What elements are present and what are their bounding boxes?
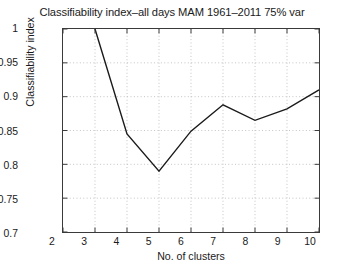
x-tick-label: 9 — [268, 236, 288, 247]
y-axis-label: Classifiability index — [24, 0, 36, 142]
y-tick-label: 0.7 — [4, 228, 18, 239]
x-tick-label: 8 — [236, 236, 256, 247]
y-tick-label: 0.85 — [0, 125, 18, 136]
chart-figure: Classifiability index–all days MAM 1961–… — [0, 0, 344, 272]
y-tick-label: 0.95 — [0, 57, 18, 68]
x-tick-label: 3 — [74, 236, 94, 247]
x-tick-label: 6 — [171, 236, 191, 247]
x-tick-label: 4 — [107, 236, 127, 247]
y-tick-label: 1 — [12, 23, 18, 34]
y-tick-label: 0.9 — [4, 91, 18, 102]
x-tick-label: 10 — [300, 236, 320, 247]
x-tick-label: 5 — [139, 236, 159, 247]
chart-title: Classifiability index–all days MAM 1961–… — [0, 6, 344, 18]
x-axis-label: No. of clusters — [62, 250, 320, 262]
y-tick-label: 0.8 — [4, 159, 18, 170]
y-tick-label: 0.75 — [0, 193, 18, 204]
x-tick-label: 7 — [203, 236, 223, 247]
plot-area — [62, 28, 320, 233]
x-tick-label: 2 — [42, 236, 62, 247]
axis-ticks — [63, 29, 319, 232]
